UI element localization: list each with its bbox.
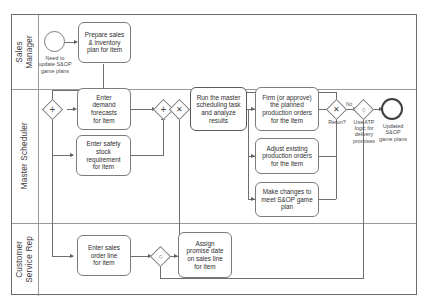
task-label: Adjust existing production orders for th… — [262, 145, 312, 168]
flow-branch-down — [248, 109, 249, 156]
task-label: Assign promise date on sales line for it… — [187, 240, 224, 270]
gateway-diamond — [150, 246, 171, 267]
gateway-split-parallel[interactable]: + — [45, 102, 60, 117]
start-event-label: Need to update S&OP game plans — [30, 55, 80, 74]
task-label: Prepare sales & inventory plan for item — [85, 31, 124, 54]
lane-header-sales-manager: Sales Manager — [12, 15, 39, 89]
task-enter-sales-order-line[interactable]: Enter sales order line for item — [77, 235, 131, 276]
lane-label-master-scheduler: Master Scheduler — [20, 122, 30, 189]
task-run-master-scheduling[interactable]: Run the master scheduling task and analy… — [190, 87, 247, 131]
task-label: Enter sales order line for item — [88, 244, 120, 267]
flow-adjust-right — [319, 156, 336, 157]
task-firm-planned-orders[interactable]: Firm (or approve) the planned production… — [255, 87, 319, 131]
gateway-diamond — [169, 99, 190, 120]
task-label: Run the master scheduling task and analy… — [196, 94, 240, 124]
lane-header-master-scheduler: Master Scheduler — [12, 89, 39, 223]
task-label: Enter demand forecasts for item — [91, 94, 117, 124]
task-label: Make changes to meet S&OP game plan — [261, 188, 312, 211]
lane-sales-manager: Sales Manager — [12, 15, 416, 89]
gateway-diamond — [326, 99, 347, 120]
gateway-sales-join[interactable]: ○ — [153, 249, 168, 264]
flow-assign-up-to-complex — [179, 118, 180, 238]
arrow-rail-to-safety — [70, 153, 74, 157]
start-event-need-to-update-sop[interactable] — [44, 31, 65, 52]
gateway-atp-label: Use ATP logic for delivery promises — [347, 119, 381, 144]
flow-label-no: No — [346, 101, 352, 107]
gateway-diamond — [353, 99, 374, 120]
lane-label-customer-service-rep: Customer Service Rep — [15, 236, 35, 283]
arrow-rail-to-sales-order — [70, 254, 74, 258]
task-label: Firm (or approve) the planned production… — [262, 94, 312, 124]
task-label: Enter safety stock requirement for item — [86, 140, 120, 170]
diagram-canvas: Sales Manager Master Scheduler Customer … — [0, 0, 429, 304]
task-prepare-sales-inventory-plan[interactable]: Prepare sales & inventory plan for item — [78, 22, 131, 63]
task-make-changes-sop[interactable]: Make changes to meet S&OP game plan — [255, 182, 319, 217]
gateway-complex[interactable]: ✕ — [172, 102, 187, 117]
gateway-rerun[interactable]: ✕ — [329, 102, 344, 117]
flow-branch-down2 — [248, 156, 249, 199]
end-event-updated-sop[interactable] — [381, 98, 403, 120]
task-adjust-existing-orders[interactable]: Adjust existing production orders for th… — [255, 138, 319, 174]
gateway-atp[interactable]: ○ — [356, 102, 371, 117]
task-assign-promise-date[interactable]: Assign promise date on sales line for it… — [178, 232, 232, 278]
task-enter-safety-stock[interactable]: Enter safety stock requirement for item — [76, 135, 131, 176]
flow-safety-right — [131, 155, 163, 156]
task-enter-demand-forecasts[interactable]: Enter demand forecasts for item — [77, 88, 131, 130]
flow-prepare-down — [103, 64, 104, 91]
gateway-diamond — [42, 99, 63, 120]
lane-header-customer-service-rep: Customer Service Rep — [12, 223, 39, 296]
flow-safety-up — [163, 119, 164, 156]
flow-make-changes-right — [319, 199, 336, 200]
flow-atp-to-sales-join — [160, 278, 364, 279]
